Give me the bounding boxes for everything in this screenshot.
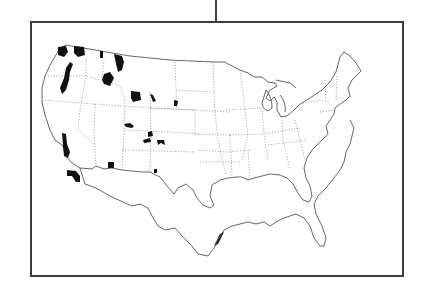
patch-co-1	[148, 131, 153, 137]
patch-co-3	[157, 140, 165, 145]
patch-id-panhandle	[100, 51, 103, 58]
us-map	[0, 0, 425, 283]
state-borders	[42, 58, 337, 178]
us-outline	[42, 45, 361, 208]
patch-or-cascades	[60, 62, 73, 94]
south-border	[80, 120, 354, 256]
patch-id-central	[102, 72, 114, 86]
patch-wy-northwest	[131, 91, 141, 102]
patch-sd-blackhills	[174, 100, 178, 106]
patch-mt-northwest	[114, 54, 124, 72]
patch-ca-south	[67, 170, 80, 182]
patch-nm-north	[154, 169, 157, 173]
shaded-regions	[58, 46, 224, 246]
patch-ca-sierra	[62, 133, 70, 158]
patch-wa-cascades	[74, 46, 85, 57]
patch-wy-north	[150, 94, 156, 102]
patch-co-2	[143, 138, 151, 143]
patch-wa-olympic	[58, 46, 68, 57]
patch-az-north	[108, 162, 114, 168]
patch-ut-north	[124, 123, 134, 128]
